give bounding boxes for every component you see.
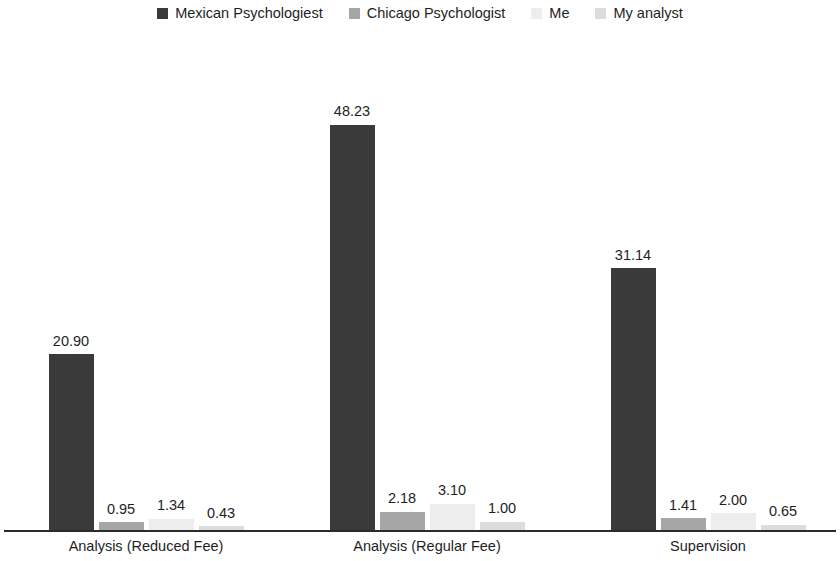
bar[interactable] <box>380 512 425 530</box>
bar[interactable] <box>99 522 144 530</box>
category-label: Analysis (Regular Fee) <box>353 539 500 554</box>
plot-area: 20.900.951.340.4348.232.183.101.0031.141… <box>0 0 840 561</box>
bar-value-label: 20.90 <box>53 334 89 349</box>
bar-value-label: 2.18 <box>388 491 416 506</box>
bar[interactable] <box>49 354 94 530</box>
bar-value-label: 31.14 <box>615 248 651 263</box>
bar-value-label: 3.10 <box>438 483 466 498</box>
bar-group: 31.141.412.000.65 <box>611 100 806 530</box>
bar-chart: Mexican Psychologiest Chicago Psychologi… <box>0 0 840 561</box>
bar-value-label: 1.41 <box>669 498 697 513</box>
bar-value-label: 1.34 <box>157 498 185 513</box>
bar[interactable] <box>611 268 656 530</box>
bar-value-label: 2.00 <box>719 493 747 508</box>
bar-group: 20.900.951.340.43 <box>49 100 244 530</box>
bar-group: 48.232.183.101.00 <box>330 100 525 530</box>
bar[interactable] <box>430 504 475 530</box>
bar[interactable] <box>149 519 194 530</box>
bar[interactable] <box>199 526 244 530</box>
bar-value-label: 0.95 <box>107 502 135 517</box>
bar-value-label: 48.23 <box>334 104 370 119</box>
bar[interactable] <box>761 525 806 530</box>
bar[interactable] <box>661 518 706 530</box>
category-label: Supervision <box>670 539 746 554</box>
bar[interactable] <box>711 513 756 530</box>
bar[interactable] <box>330 125 375 530</box>
x-axis-line <box>4 530 836 532</box>
bar-value-label: 0.43 <box>207 506 235 521</box>
bar-value-label: 0.65 <box>769 504 797 519</box>
bar-value-label: 1.00 <box>488 501 516 516</box>
category-label: Analysis (Reduced Fee) <box>69 539 224 554</box>
bar[interactable] <box>480 522 525 530</box>
